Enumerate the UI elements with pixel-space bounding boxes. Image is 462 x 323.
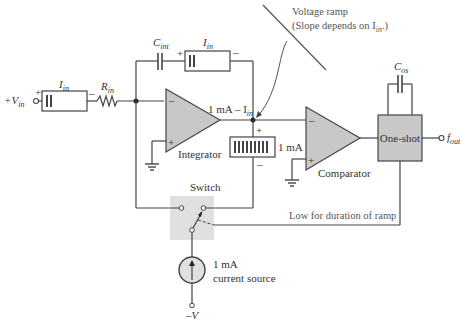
source-label-line1: 1 mA xyxy=(213,258,238,270)
iin-top-label: Iin xyxy=(202,36,213,51)
rin-label: Rin xyxy=(100,80,114,95)
ma-bar-box xyxy=(230,137,275,157)
fout-terminal xyxy=(439,136,444,141)
rin-resistor xyxy=(97,96,117,106)
comparator-noninv-input: + xyxy=(308,154,314,166)
iin-top-minus: – xyxy=(232,46,239,58)
iin-left-bar-box xyxy=(42,91,87,111)
vin-label: +Vin xyxy=(4,94,24,109)
switch-terminal-left xyxy=(179,206,184,211)
integrator-ground-icon xyxy=(145,164,159,170)
source-label-line2: current source xyxy=(213,272,276,284)
ramp-pointer-arrow xyxy=(258,41,287,116)
integrator-noninv-input: + xyxy=(168,136,174,148)
ramp-note-line2: (Slope depends on Iin.) xyxy=(292,20,389,34)
ramp-note-line1: Voltage ramp xyxy=(292,6,348,17)
node-current-label: 1 mA – Iin xyxy=(208,103,253,118)
iin-top-bar-box xyxy=(185,51,230,71)
switch-terminal-right xyxy=(201,206,206,211)
ma-bar-plus: + xyxy=(256,124,262,136)
integrator-inv-input: – xyxy=(168,94,175,106)
low-duration-note: Low for duration of ramp xyxy=(289,210,396,221)
fout-label: fout xyxy=(447,131,461,146)
comparator-inv-input: – xyxy=(308,114,315,126)
comparator-label: Comparator xyxy=(318,167,371,179)
vfc-circuit-diagram: +Vin + Iin – Rin Cint + Iin – – + Integr… xyxy=(0,0,462,323)
cint-label: Cint xyxy=(153,36,170,51)
vin-terminal xyxy=(34,99,39,104)
iin-left-minus: – xyxy=(88,87,95,99)
neg-v-label: –V xyxy=(185,309,200,321)
switch-terminal-common xyxy=(190,228,195,233)
iin-top-plus: + xyxy=(177,47,183,59)
ma-bar-label: 1 mA xyxy=(278,141,303,153)
iin-left-plus: + xyxy=(35,86,41,98)
neg-v-terminal xyxy=(190,303,195,308)
one-shot-label: One-shot xyxy=(380,132,420,144)
cos-label: Cos xyxy=(394,60,408,75)
switch-label: Switch xyxy=(190,181,221,193)
integrator-label: Integrator xyxy=(178,148,222,160)
comparator-ground-icon xyxy=(285,180,299,186)
ma-bar-minus: – xyxy=(256,158,263,170)
